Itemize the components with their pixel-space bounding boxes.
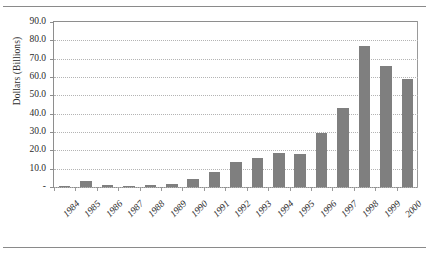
x-axis-tick-label: 1997 [339,199,360,220]
top-rule [3,6,426,7]
x-axis-tick [268,187,269,191]
bar [145,185,157,187]
x-axis-tick [54,187,55,191]
x-axis-tick [397,187,398,191]
plot-area: 90.080.070.060.050.040.030.020.010.0- 19… [54,22,418,187]
bar [273,153,285,187]
x-axis-tick-label: 1999 [382,199,403,220]
bar [252,158,264,187]
x-axis-tick [247,187,248,191]
x-axis-tick-label: 1990 [189,199,210,220]
x-axis-tick-label: 1985 [82,199,103,220]
x-axis-tick [375,187,376,191]
x-axis-tick-label: 1989 [168,199,189,220]
x-axis-tick-label: 1987 [125,199,146,220]
chart-figure: Dollars (Billions) 90.080.070.060.050.04… [0,0,429,255]
x-axis-tick [140,187,141,191]
y-axis-tick-label: 10.0 [0,163,46,173]
x-axis-tick-label: 1993 [253,199,274,220]
y-axis-tick-label: 30.0 [0,126,46,136]
x-axis-tick [182,187,183,191]
bar [380,66,392,187]
bar [166,184,178,187]
x-axis-tick [332,187,333,191]
y-axis-tick-label: 40.0 [0,108,46,118]
x-axis-tick [225,187,226,191]
y-axis-tick-label: 20.0 [0,144,46,154]
x-axis-tick-label: 1984 [61,199,82,220]
x-axis-tick [75,187,76,191]
y-axis-tick-label: 60.0 [0,71,46,81]
x-axis-tick [204,187,205,191]
x-axis-tick [161,187,162,191]
x-axis-tick-label: 2000 [403,199,424,220]
y-axis-tick-label: 80.0 [0,34,46,44]
bar [102,185,114,187]
y-axis-tick-label: 90.0 [0,16,46,26]
x-axis-tick-label: 1998 [360,199,381,220]
x-axis-tick [311,187,312,191]
x-axis-tick-label: 1991 [211,199,232,220]
x-axis-tick [354,187,355,191]
y-axis-tick-label: 70.0 [0,53,46,63]
bar [230,162,242,187]
bar [59,186,71,187]
bar [316,133,328,187]
gridline [54,187,418,188]
bar-series [54,22,418,187]
bar [209,172,221,187]
x-axis-tick [97,187,98,191]
x-axis-tick-label: 1992 [232,199,253,220]
y-axis-tick-label: - [0,181,46,191]
bottom-rule [3,247,426,248]
x-axis-tick-label: 1995 [296,199,317,220]
bar [294,154,306,187]
bar [337,108,349,187]
bar [80,181,92,187]
y-axis-tick-label: 50.0 [0,89,46,99]
bar [123,186,135,187]
x-axis-tick [290,187,291,191]
x-axis-tick-label: 1986 [104,199,125,220]
bar [187,179,199,187]
x-axis-tick-label: 1994 [275,199,296,220]
bar [359,46,371,187]
x-axis-tick-label: 1988 [146,199,167,220]
bar [402,79,414,187]
x-axis-tick-label: 1996 [318,199,339,220]
x-axis-tick [118,187,119,191]
